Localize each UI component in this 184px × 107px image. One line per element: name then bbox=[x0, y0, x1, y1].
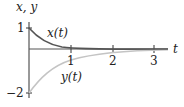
y-axis-label: x, y bbox=[16, 1, 37, 13]
tick-label-x2: 2 bbox=[109, 55, 117, 67]
tick-label-y1: 1 bbox=[17, 22, 25, 34]
tick-label-ym2: −2 bbox=[6, 87, 24, 99]
curve-label-y: y(t) bbox=[61, 71, 82, 83]
tick-label-x3: 3 bbox=[150, 55, 158, 67]
curve-label-x: x(t) bbox=[47, 27, 68, 39]
curve-y bbox=[29, 50, 168, 93]
x-axis-label: t bbox=[173, 43, 178, 55]
tick-label-x1: 1 bbox=[67, 55, 75, 67]
